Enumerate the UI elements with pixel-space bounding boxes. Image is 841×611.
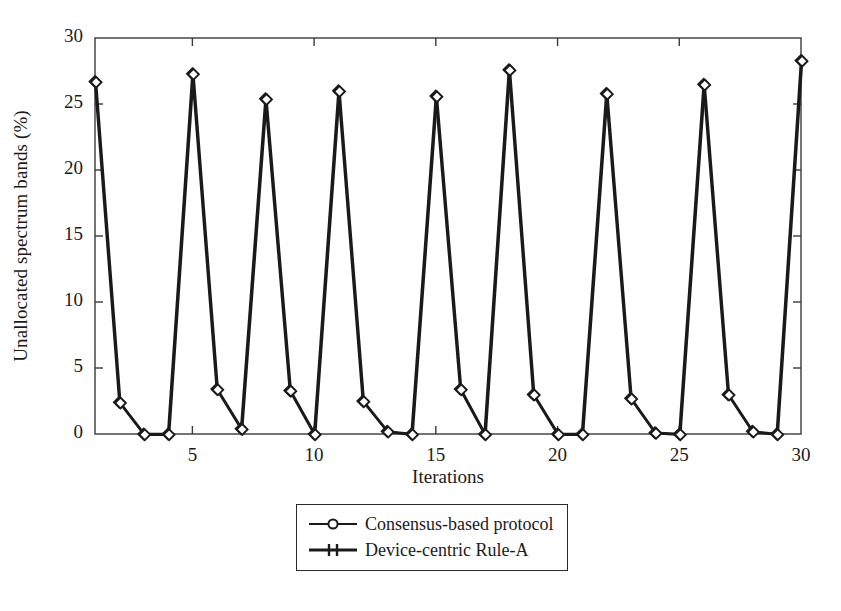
chart-figure: Unallocated spectrum bands (%) Iteration… bbox=[0, 0, 841, 611]
y-axis-label-text: Unallocated spectrum bands (%) bbox=[10, 110, 32, 362]
y-tick-label-15: 15 bbox=[39, 223, 83, 245]
y-tick-label-25: 25 bbox=[39, 91, 83, 113]
x-tick-label-25: 25 bbox=[659, 444, 699, 466]
y-tick-label-20: 20 bbox=[39, 157, 83, 179]
chart-legend: Consensus-based protocol Device-centric … bbox=[296, 504, 568, 571]
series-device-centric-rule-a bbox=[91, 56, 808, 440]
x-axis-label: Iterations bbox=[95, 466, 801, 488]
legend-marker-plus-icon bbox=[307, 540, 359, 560]
legend-label-consensus: Consensus-based protocol bbox=[359, 514, 553, 535]
legend-item-device-centric: Device-centric Rule-A bbox=[307, 537, 553, 563]
data-series bbox=[90, 55, 808, 440]
legend-label-device-centric: Device-centric Rule-A bbox=[359, 540, 528, 561]
x-tick-label-20: 20 bbox=[538, 444, 578, 466]
y-tick-label-10: 10 bbox=[39, 289, 83, 311]
y-tick-label-30: 30 bbox=[39, 25, 83, 47]
legend-item-consensus: Consensus-based protocol bbox=[307, 511, 553, 537]
y-tick-label-0: 0 bbox=[39, 421, 83, 443]
y-axis-label: Unallocated spectrum bands (%) bbox=[6, 38, 36, 434]
legend-marker-circle-icon bbox=[307, 514, 359, 534]
x-tick-label-30: 30 bbox=[781, 444, 821, 466]
y-tick-label-5: 5 bbox=[39, 355, 83, 377]
x-tick-label-5: 5 bbox=[172, 444, 212, 466]
x-tick-label-10: 10 bbox=[294, 444, 334, 466]
x-tick-label-15: 15 bbox=[416, 444, 456, 466]
